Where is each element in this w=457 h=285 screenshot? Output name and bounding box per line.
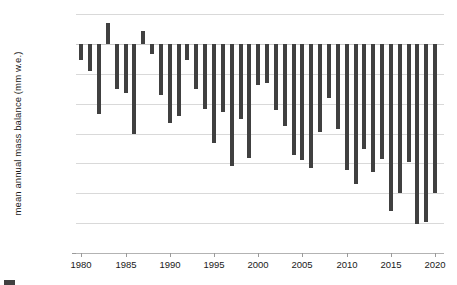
x-tick-mark-1985 [126,253,127,257]
bar-1997 [230,44,234,166]
bar-1985 [124,44,128,93]
bar-1988 [150,44,154,54]
bar-2018 [415,44,419,224]
bar-2019 [424,44,428,222]
x-tick-label-2015: 2015 [371,260,411,270]
x-tick-label-2005: 2005 [282,260,322,270]
x-tick-mark-2015 [391,253,392,257]
x-tick-label-1990: 1990 [150,260,190,270]
gridline--1400 [76,253,444,254]
bar-2007 [318,44,322,132]
bar-2010 [345,44,349,170]
glacier-mass-balance-chart: mean annual mass balance (mm w.e.) 2000-… [0,0,457,285]
bar-1991 [177,44,181,116]
bar-2005 [300,44,304,161]
legend-swatch-partial [4,280,15,285]
bar-2020 [433,44,437,193]
bar-1993 [194,44,198,90]
x-tick-label-1980: 1980 [61,260,101,270]
bar-1984 [115,44,119,89]
bar-2002 [274,44,278,110]
bar-2017 [407,44,411,162]
bar-1982 [97,44,101,114]
bar-1980 [79,44,83,60]
bar-1989 [159,44,163,96]
bar-2006 [309,44,313,168]
bar-2015 [389,44,393,211]
bar-2011 [354,44,358,184]
y-tick-mark [72,253,76,254]
bar-1990 [168,44,172,123]
bar-1994 [203,44,207,109]
x-tick-label-1995: 1995 [194,260,234,270]
x-tick-mark-2020 [435,253,436,257]
x-tick-label-2010: 2010 [327,260,367,270]
x-tick-mark-1990 [170,253,171,257]
bar-1996 [221,44,225,112]
gridline-200 [76,14,444,15]
x-tick-mark-2005 [302,253,303,257]
bar-1998 [239,44,243,119]
x-tick-label-2020: 2020 [415,260,455,270]
gridline--1200 [76,223,444,224]
bar-1995 [212,44,216,143]
bar-1983 [106,23,110,44]
bar-1987 [141,31,145,44]
bar-1999 [247,44,251,158]
bar-2000 [256,44,260,85]
bar-2008 [327,44,331,99]
y-axis-title: mean annual mass balance (mm w.e.) [12,19,23,249]
bar-2004 [292,44,296,155]
x-tick-label-1985: 1985 [106,260,146,270]
bar-2013 [371,44,375,172]
bar-2016 [398,44,402,193]
bar-2001 [265,44,269,83]
x-tick-mark-1980 [81,253,82,257]
x-tick-label-2000: 2000 [238,260,278,270]
x-tick-mark-1995 [214,253,215,257]
plot-area: 2000-200-400-600-800-1000-1200-140019801… [76,14,444,253]
bar-1981 [88,44,92,71]
x-tick-mark-2000 [258,253,259,257]
bar-2014 [380,44,384,159]
bar-2009 [336,44,340,129]
bar-1992 [185,44,189,60]
bar-1986 [132,44,136,134]
bar-2003 [283,44,287,126]
bar-2012 [362,44,366,149]
x-tick-mark-2010 [347,253,348,257]
